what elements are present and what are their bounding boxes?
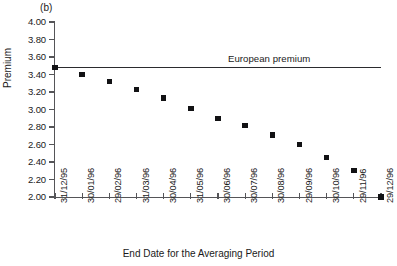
- european-premium-label: European premium: [228, 53, 310, 64]
- x-axis-tick-label: 30/08/96: [276, 168, 286, 203]
- x-axis-tick: [190, 193, 191, 199]
- x-axis-tick-label: 29/11/96: [358, 169, 368, 203]
- y-axis-tick: [49, 161, 55, 162]
- data-point-marker: [242, 123, 247, 128]
- chart-figure: (b) 2.002.202.402.602.803.003.203.403.60…: [0, 0, 397, 266]
- y-axis-title: Premium: [2, 48, 13, 88]
- y-axis-tick-label: 2.80: [28, 121, 46, 132]
- y-axis-tick-label: 3.40: [28, 69, 46, 80]
- x-axis-tick: [82, 193, 83, 199]
- data-point-marker: [324, 155, 329, 160]
- x-axis-tick-label: 29/09/96: [304, 168, 314, 203]
- european-premium-line: [55, 67, 381, 69]
- x-axis-tick: [245, 193, 246, 199]
- data-point-marker: [188, 106, 193, 111]
- y-axis-tick-label: 3.00: [28, 104, 46, 115]
- x-axis-tick: [299, 193, 300, 199]
- y-axis-tick: [49, 126, 55, 127]
- y-axis-tick: [49, 56, 55, 57]
- x-axis-tick-label: 31/05/96: [195, 168, 205, 203]
- data-point-marker: [107, 79, 112, 84]
- x-axis-tick: [54, 193, 55, 199]
- data-point-marker: [79, 72, 84, 77]
- x-axis-tick-label: 30/07/96: [249, 168, 259, 203]
- y-axis-tick: [49, 74, 55, 75]
- y-axis-tick: [49, 109, 55, 110]
- x-axis-tick: [109, 193, 110, 199]
- y-axis-tick: [49, 179, 55, 180]
- x-axis-tick-label: 30/01/96: [86, 168, 96, 203]
- data-point-marker: [351, 168, 356, 173]
- y-axis-tick-label: 3.60: [28, 51, 46, 62]
- x-axis-tick-label: 29/02/96: [113, 168, 123, 203]
- x-axis-tick-label: 31/12/95: [59, 168, 69, 203]
- x-axis-tick-label: 31/03/96: [141, 168, 151, 203]
- y-axis-tick: [49, 91, 55, 92]
- y-axis-tick-label: 2.20: [28, 174, 46, 185]
- x-axis-tick: [217, 193, 218, 199]
- data-point-marker: [134, 87, 139, 92]
- data-point-marker: [378, 194, 383, 199]
- data-point-marker: [52, 65, 57, 70]
- y-axis-tick-label: 2.60: [28, 139, 46, 150]
- x-axis-tick-label: 30/06/96: [222, 168, 232, 203]
- x-axis-tick: [326, 193, 327, 199]
- data-point-marker: [161, 95, 166, 100]
- x-axis-tick: [272, 193, 273, 199]
- x-axis-tick: [136, 193, 137, 199]
- x-axis-tick-label: 30/04/96: [168, 168, 178, 203]
- x-axis-tick: [163, 193, 164, 199]
- y-axis-tick: [49, 39, 55, 40]
- y-axis-tick-label: 3.80: [28, 34, 46, 45]
- y-axis-tick-label: 4.00: [28, 16, 46, 27]
- y-axis-tick: [49, 21, 55, 22]
- data-point-marker: [270, 132, 275, 137]
- data-point-marker: [215, 116, 220, 121]
- x-axis-tick: [353, 193, 354, 199]
- panel-label: (b): [40, 2, 53, 13]
- x-axis-title: End Date for the Averaging Period: [0, 248, 397, 259]
- y-axis-tick-label: 2.00: [28, 191, 46, 202]
- x-axis-tick-label: 29/12/96: [385, 168, 395, 203]
- y-axis-tick-label: 2.40: [28, 156, 46, 167]
- x-axis-tick-label: 30/10/96: [331, 168, 341, 203]
- y-axis-tick: [49, 144, 55, 145]
- y-axis-tick-label: 3.20: [28, 86, 46, 97]
- data-point-marker: [297, 142, 302, 147]
